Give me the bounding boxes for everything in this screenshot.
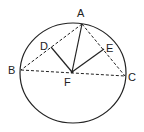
label-B: B [8,64,15,76]
geometry-diagram: A B C D E F [0,0,144,132]
label-D: D [40,40,48,52]
segment-FE [72,49,104,72]
label-A: A [77,7,85,19]
label-E: E [106,42,113,54]
label-C: C [128,71,136,83]
point-F-dot [71,71,74,74]
segment-FA [72,24,82,72]
label-F: F [64,76,71,88]
segment-FD [51,47,72,72]
